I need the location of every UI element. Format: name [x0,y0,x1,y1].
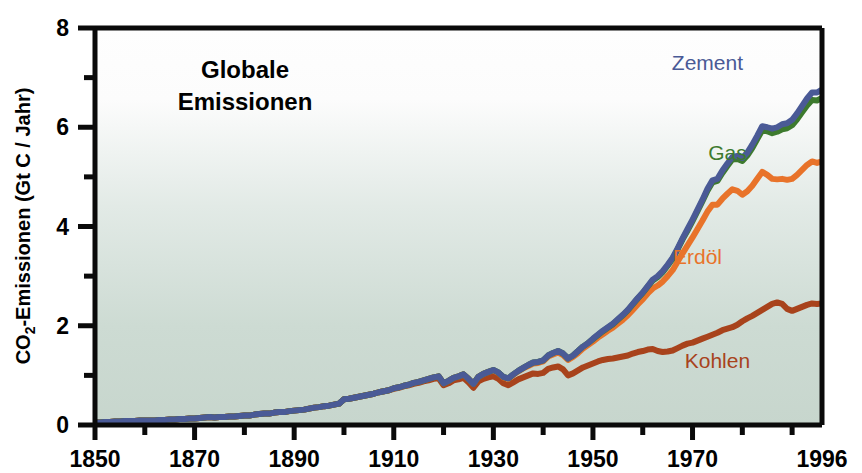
chart-title-line-2: Emissionen [178,88,313,115]
series-label-kohlen: Kohlen [685,349,750,372]
y-tick-label: 6 [56,114,69,140]
x-tick-label: 1890 [269,446,320,472]
series-label-zement: Zement [672,51,743,74]
y-tick-label: 4 [56,214,69,240]
x-tick-label: 1930 [468,446,519,472]
x-tick-label: 1910 [368,446,419,472]
y-axis-title-pre: CO [12,334,34,364]
x-tick-label: 1850 [69,446,120,472]
chart-container: 02468 18501870189019101930195019701996 C… [0,0,862,473]
y-axis-title-post: -Emissionen (Gt C / Jahr) [12,88,34,327]
chart-title-line-1: Globale [201,56,289,83]
x-tick-label: 1970 [667,446,718,472]
y-tick-label: 2 [56,313,69,339]
series-label-gas: Gas [708,141,747,164]
x-tick-label: 1950 [567,446,618,472]
y-tick-label: 8 [56,15,69,41]
emissions-chart: 02468 18501870189019101930195019701996 C… [0,0,862,473]
x-tick-label: 1870 [169,446,220,472]
x-tick-label: 1996 [796,446,847,472]
series-label-erdl: Erdöl [673,245,722,268]
y-tick-label: 0 [56,412,69,438]
y-axis-title-subscript: 2 [22,326,38,334]
